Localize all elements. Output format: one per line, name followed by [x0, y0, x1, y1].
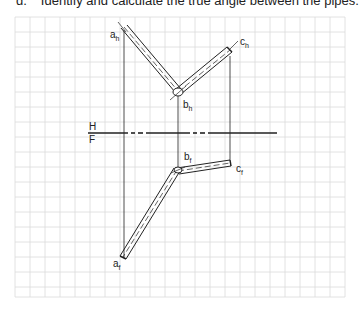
- pipe-bc-top-view: [176, 41, 238, 94]
- label-b-h: bh: [183, 99, 193, 112]
- label-a-h: ah: [110, 29, 120, 42]
- fold-label-h: H: [89, 121, 96, 132]
- pipe-ab-top-view: [118, 22, 181, 92]
- label-c-f: cf: [236, 163, 243, 176]
- label-b-f: bf: [184, 151, 192, 164]
- grid: [15, 17, 345, 297]
- label-a-f: af: [113, 258, 121, 271]
- fold-label-f: F: [89, 134, 95, 145]
